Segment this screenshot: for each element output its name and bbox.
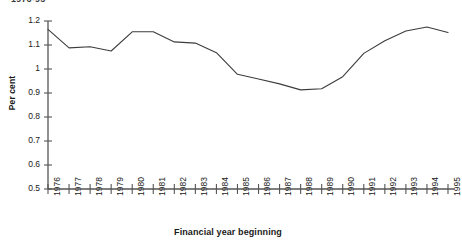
- axis-ticks: [44, 21, 448, 194]
- axis-lines: [48, 21, 454, 189]
- data-series-line: [48, 27, 448, 90]
